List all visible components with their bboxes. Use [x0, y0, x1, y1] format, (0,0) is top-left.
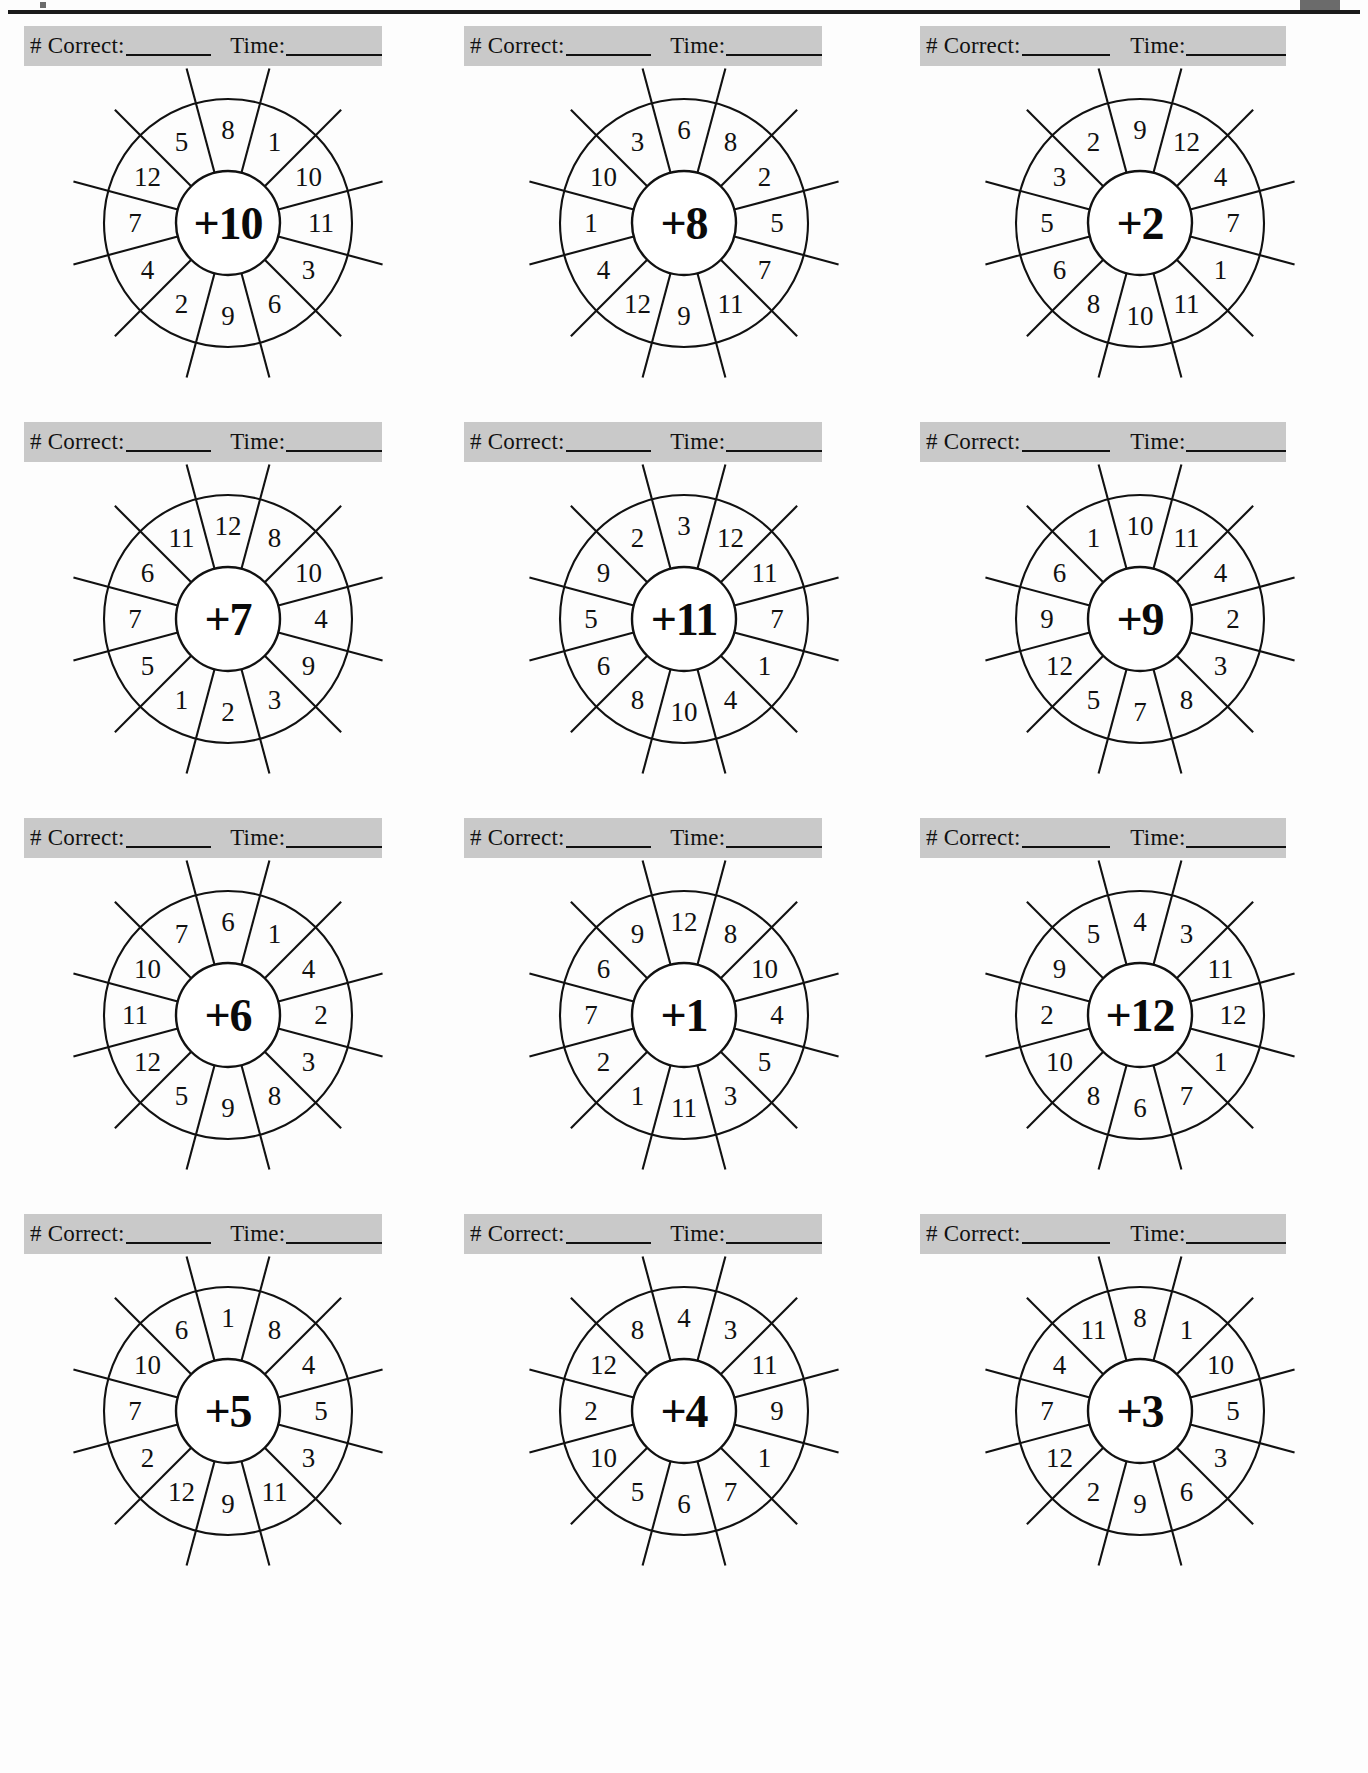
spoke-line — [697, 464, 725, 568]
correct-input-blank[interactable] — [1022, 37, 1110, 56]
spoke-line — [278, 182, 382, 210]
spoke-line — [1153, 68, 1181, 172]
correct-label: # Correct: — [926, 825, 1021, 851]
wheel-cell: # Correct:Time:682571191241103+8 — [456, 14, 912, 410]
spoke-line — [265, 110, 341, 186]
worksheet-page: # Correct:Time:811011369247125+10# Corre… — [0, 0, 1368, 1773]
wheel-plus-11: 312117141086592+11 — [519, 454, 849, 784]
spoke-line — [985, 974, 1089, 1002]
spoke-line — [697, 273, 725, 377]
time-input-blank[interactable] — [286, 433, 382, 452]
spoke-line — [1190, 182, 1294, 210]
spoke-line — [73, 182, 177, 210]
spoke-line — [529, 182, 633, 210]
time-input-blank[interactable] — [1186, 829, 1286, 848]
wheel-cell: # Correct:Time:101142387512961+9 — [912, 410, 1368, 806]
spoke-line — [697, 1461, 725, 1565]
spoke-line — [643, 68, 671, 172]
correct-label: # Correct: — [470, 1221, 565, 1247]
time-input-blank[interactable] — [1186, 37, 1286, 56]
spoke-line — [1153, 273, 1181, 377]
correct-label: # Correct: — [926, 1221, 1021, 1247]
spoke-line — [1190, 632, 1294, 660]
spoke-line — [265, 656, 341, 732]
spoke-line — [1099, 273, 1127, 377]
spoke-line — [697, 860, 725, 964]
spoke-line — [241, 1461, 269, 1565]
correct-input-blank[interactable] — [566, 829, 651, 848]
spoke-line — [265, 902, 341, 978]
time-input-blank[interactable] — [726, 37, 822, 56]
spoke-line — [721, 656, 797, 732]
correct-input-blank[interactable] — [1022, 433, 1110, 452]
spoke-line — [643, 860, 671, 964]
spoke-line — [643, 273, 671, 377]
spoke-line — [1177, 1448, 1253, 1524]
spoke-line — [1099, 68, 1127, 172]
wheel-cell: # Correct:Time:128104531112769+1 — [456, 806, 912, 1202]
correct-input-blank[interactable] — [126, 1225, 211, 1244]
spoke-line — [278, 1370, 382, 1398]
spoke-line — [1027, 1448, 1103, 1524]
time-input-blank[interactable] — [286, 37, 382, 56]
spoke-line — [734, 236, 838, 264]
spoke-line — [1099, 860, 1127, 964]
spoke-line — [1190, 1028, 1294, 1056]
wheel-container: 101142387512961+9 — [912, 454, 1368, 806]
spoke-line — [643, 1461, 671, 1565]
correct-input-blank[interactable] — [126, 829, 211, 848]
spoke-line — [265, 1448, 341, 1524]
wheel-container: 682571191241103+8 — [456, 58, 912, 410]
spoke-line — [734, 632, 838, 660]
correct-input-blank[interactable] — [126, 433, 211, 452]
wheel-cell: # Correct:Time:811011369247125+10 — [0, 14, 456, 410]
wheel-plus-3: 811053692127411+3 — [975, 1246, 1305, 1576]
correct-input-blank[interactable] — [566, 1225, 651, 1244]
spoke-line — [187, 1461, 215, 1565]
spoke-line — [73, 236, 177, 264]
spoke-line — [529, 578, 633, 606]
spoke-line — [1153, 1256, 1181, 1360]
spoke-line — [241, 1065, 269, 1169]
time-input-blank[interactable] — [286, 1225, 382, 1244]
wheel-plus-6: 614238951211107+6 — [63, 850, 393, 1180]
correct-input-blank[interactable] — [566, 37, 651, 56]
time-label: Time: — [230, 825, 285, 851]
time-input-blank[interactable] — [1186, 1225, 1286, 1244]
wheel-plus-9: 101142387512961+9 — [975, 454, 1305, 784]
spoke-line — [643, 1256, 671, 1360]
wheel-cell: # Correct:Time:312117141086592+11 — [456, 410, 912, 806]
spoke-line — [571, 1052, 647, 1128]
spoke-line — [115, 110, 191, 186]
correct-input-blank[interactable] — [126, 37, 211, 56]
spoke-line — [115, 656, 191, 732]
time-input-blank[interactable] — [726, 829, 822, 848]
time-input-blank[interactable] — [726, 433, 822, 452]
spoke-line — [73, 1028, 177, 1056]
spoke-line — [1099, 464, 1127, 568]
spoke-line — [734, 578, 838, 606]
wheel-cell: # Correct:Time:431191765102128+4 — [456, 1202, 912, 1598]
spoke-line — [187, 669, 215, 773]
center-operation-label: +1 — [660, 989, 707, 1042]
spoke-line — [697, 1256, 725, 1360]
correct-input-blank[interactable] — [1022, 1225, 1110, 1244]
correct-input-blank[interactable] — [1022, 829, 1110, 848]
spoke-line — [1177, 1052, 1253, 1128]
time-input-blank[interactable] — [726, 1225, 822, 1244]
spoke-line — [643, 464, 671, 568]
wheel-container: 312117141086592+11 — [456, 454, 912, 806]
time-input-blank[interactable] — [1186, 433, 1286, 452]
wheel-plus-2: 912471111086532+2 — [975, 58, 1305, 388]
center-operation-label: +8 — [660, 197, 707, 250]
spoke-line — [187, 273, 215, 377]
wheel-grid: # Correct:Time:811011369247125+10# Corre… — [0, 14, 1368, 1598]
spoke-line — [529, 1424, 633, 1452]
spoke-line — [265, 260, 341, 336]
wheel-container: 128104531112769+1 — [456, 850, 912, 1202]
time-input-blank[interactable] — [286, 829, 382, 848]
spoke-line — [1099, 1461, 1127, 1565]
center-operation-label: +10 — [193, 197, 262, 250]
correct-input-blank[interactable] — [566, 433, 651, 452]
wheel-plus-12: 431112176810295+12 — [975, 850, 1305, 1180]
